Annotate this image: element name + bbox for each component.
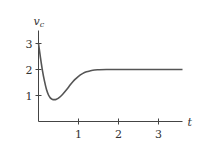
y-tick-label: 2 xyxy=(26,64,33,77)
y-tick-label: 3 xyxy=(26,38,33,51)
series-line-vc xyxy=(39,44,183,100)
x-tick-label: 1 xyxy=(75,128,82,141)
y-tick-label: 1 xyxy=(26,90,33,103)
x-tick-label: 3 xyxy=(155,128,162,141)
x-tick-label: 2 xyxy=(115,128,122,141)
chart: 123123 t vc xyxy=(0,0,198,151)
x-axis-label: t xyxy=(188,116,193,129)
y-axis-label: vc xyxy=(34,15,45,29)
